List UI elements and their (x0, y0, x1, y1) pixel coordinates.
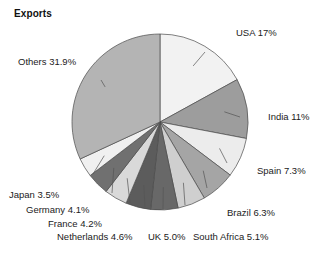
slice-label-netherlands: Netherlands 4.6% (57, 232, 133, 242)
slice-label-france: France 4.2% (48, 219, 102, 229)
slice-label-uk: UK 5.0% (148, 232, 186, 242)
slice-label-usa: USA 17% (236, 28, 277, 38)
slice-label-others: Others 31.9% (18, 57, 76, 67)
exports-pie-chart: Exports USA 17%India 11%Spain 7.3%Brazil… (0, 0, 336, 257)
slice-label-south-africa: South Africa 5.1% (193, 232, 269, 242)
slice-label-germany: Germany 4.1% (26, 205, 89, 215)
slice-label-japan: Japan 3.5% (9, 190, 59, 200)
slice-label-spain: Spain 7.3% (257, 166, 306, 176)
slice-label-brazil: Brazil 6.3% (227, 208, 275, 218)
slice-label-india: India 11% (268, 112, 310, 122)
pie-slice-group (72, 34, 248, 210)
